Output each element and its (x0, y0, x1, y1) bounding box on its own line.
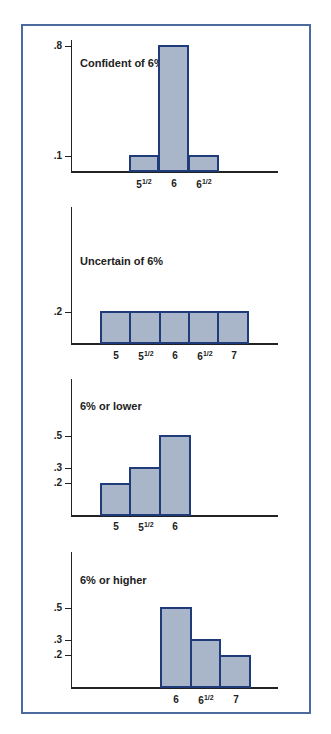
y-axis (71, 379, 72, 516)
chart-title: 6% or higher (80, 574, 147, 586)
bar (100, 483, 131, 516)
x-tick-label: 6 (161, 694, 191, 705)
y-tick-label: .2 (42, 477, 62, 488)
bar (188, 155, 219, 172)
y-tick (65, 608, 71, 609)
x-tick-label: 61/2 (191, 694, 221, 706)
x-tick-label: 6 (159, 178, 189, 189)
y-axis (71, 40, 72, 173)
x-tick-label: 6 (160, 350, 190, 361)
y-tick (65, 483, 71, 484)
bar (129, 311, 161, 344)
bar (129, 155, 159, 172)
y-tick (65, 46, 71, 47)
chart-title: Uncertain of 6% (80, 255, 163, 267)
y-tick (65, 468, 71, 469)
chart-title: 6% or lower (80, 400, 142, 412)
y-axis (71, 207, 72, 344)
y-tick-label: .5 (42, 430, 62, 441)
bar (100, 311, 131, 344)
x-tick-label: 51/2 (131, 350, 161, 362)
bar (160, 607, 192, 688)
y-tick-label: .3 (42, 634, 62, 645)
y-tick (65, 436, 71, 437)
y-tick (65, 156, 71, 157)
x-tick-label: 5 (101, 350, 131, 361)
y-tick-label: .2 (42, 306, 62, 317)
y-tick-label: .5 (42, 602, 62, 613)
y-tick-label: .8 (42, 40, 62, 51)
bar (159, 435, 191, 516)
y-tick-label: .2 (42, 649, 62, 660)
y-tick-label: .1 (42, 150, 62, 161)
y-tick (65, 655, 71, 656)
x-tick-label: 7 (221, 694, 251, 705)
bar (188, 311, 219, 344)
y-axis (71, 552, 72, 688)
x-tick-label: 51/2 (129, 178, 159, 190)
y-tick-label: .3 (42, 462, 62, 473)
bar (158, 45, 189, 172)
bar (190, 639, 221, 688)
x-tick-label: 61/2 (190, 350, 220, 362)
x-tick-label: 61/2 (189, 178, 219, 190)
x-tick-label: 5 (101, 521, 131, 532)
chart-title: Confident of 6% (80, 57, 164, 69)
y-tick (65, 640, 71, 641)
y-tick (65, 312, 71, 313)
bar (129, 467, 161, 516)
bar (219, 655, 251, 688)
bar (217, 311, 249, 344)
bar (159, 311, 190, 344)
x-tick-label: 7 (219, 350, 249, 361)
x-tick-label: 6 (160, 521, 190, 532)
x-tick-label: 51/2 (131, 521, 161, 533)
